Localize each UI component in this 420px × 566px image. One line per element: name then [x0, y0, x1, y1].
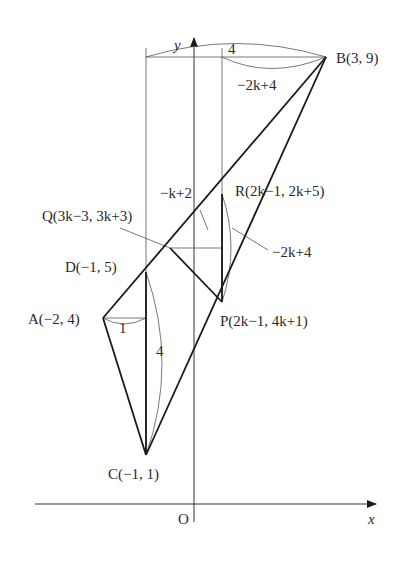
leader-q — [120, 228, 170, 248]
segment-AC — [103, 318, 146, 455]
label-cd: 4 — [156, 343, 164, 359]
x-axis-label: x — [367, 511, 375, 527]
point-label-Q: Q(3k−3, 3k+3) — [42, 208, 132, 225]
point-label-C: C(−1, 1) — [108, 466, 159, 483]
arc-br — [222, 57, 326, 69]
arc-top-width — [146, 44, 326, 58]
leader-pr — [232, 228, 268, 250]
origin-label: O — [178, 511, 189, 527]
label-br: −2k+4 — [237, 77, 277, 93]
label-pr: −2k+4 — [272, 244, 312, 260]
point-label-B: B(3, 9) — [336, 50, 379, 67]
y-axis-label: y — [172, 37, 181, 53]
segment-QP — [170, 248, 222, 302]
leader-qr — [200, 210, 208, 230]
coordinate-diagram: y x O 4 −2k+4 −k+2 −2k+4 1 4 B(3, 9) R(2… — [0, 0, 420, 566]
point-label-D: D(−1, 5) — [65, 259, 117, 276]
label-qr: −k+2 — [160, 185, 192, 201]
point-label-P: P(2k−1, 4k+1) — [220, 313, 308, 330]
arc-cd — [146, 272, 162, 455]
point-label-A: A(−2, 4) — [28, 311, 80, 328]
label-ad: 1 — [119, 320, 127, 336]
point-label-R: R(2k−1, 2k+5) — [235, 183, 324, 200]
label-top-width: 4 — [228, 41, 236, 57]
